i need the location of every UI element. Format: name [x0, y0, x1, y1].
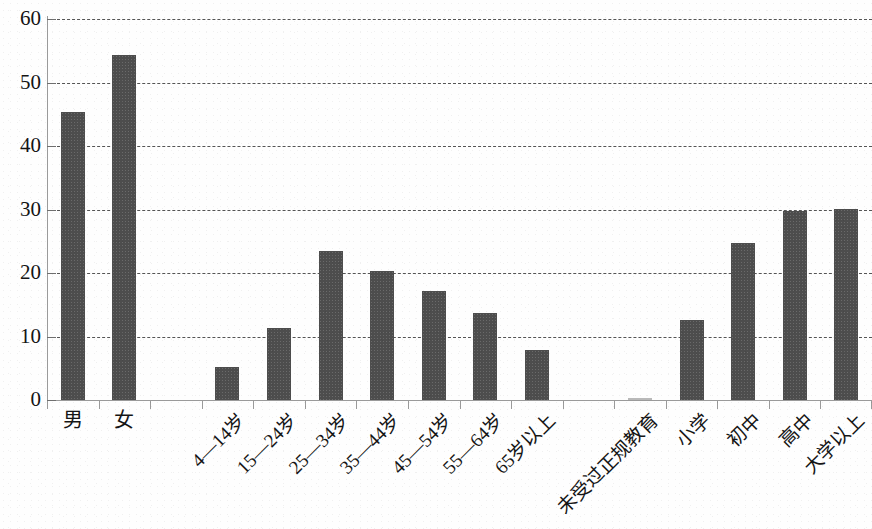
x-axis-category-label: 男 — [63, 410, 83, 430]
bar — [680, 320, 704, 400]
plot-area — [47, 19, 872, 400]
x-axis-category-label: 高中 — [776, 410, 817, 451]
bar — [783, 211, 807, 400]
bar — [834, 209, 858, 400]
y-axis-tick-mark — [47, 273, 56, 274]
y-axis-tick-label: 50 — [0, 72, 41, 93]
y-axis-tick-mark — [47, 83, 56, 84]
y-axis-tick-label: 30 — [0, 199, 41, 220]
x-axis-category-label: 女 — [114, 410, 134, 430]
bar — [319, 251, 343, 400]
x-axis-category-label: 初中 — [724, 410, 765, 451]
bar — [215, 367, 239, 400]
bar — [473, 313, 497, 400]
y-axis-tick-mark — [47, 337, 56, 338]
y-axis-tick-label: 60 — [0, 8, 41, 29]
y-axis-tick-label: 10 — [0, 326, 41, 347]
bar — [267, 328, 291, 400]
bar — [422, 291, 446, 400]
y-axis-tick-label: 20 — [0, 262, 41, 283]
y-axis-tick-mark — [47, 210, 56, 211]
x-axis-labels: 男女4—14岁15—24岁25—34岁35—44岁45—54岁55—64岁65岁… — [47, 400, 872, 529]
y-axis-tick-mark — [47, 400, 56, 401]
bar — [112, 55, 136, 400]
x-axis-category-label: 未受过正规教育 — [554, 410, 662, 518]
y-axis-tick-label: 0 — [0, 389, 41, 410]
y-axis-tick-mark — [47, 146, 56, 147]
x-axis-category-label: 小学 — [673, 410, 714, 451]
y-axis-labels: 0102030405060 — [0, 0, 41, 381]
bar — [525, 350, 549, 400]
y-axis-tick-label: 40 — [0, 135, 41, 156]
y-axis-tick-mark — [47, 19, 56, 20]
bar-chart: 0102030405060 男女4—14岁15—24岁25—34岁35—44岁4… — [0, 0, 872, 529]
bars-layer — [47, 19, 872, 400]
bar — [731, 243, 755, 400]
bar — [61, 112, 85, 400]
bar — [370, 271, 394, 400]
